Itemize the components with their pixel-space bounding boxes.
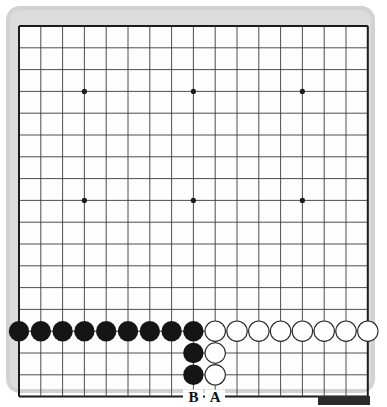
board-grid-and-stones — [0, 0, 387, 407]
black-stone — [183, 321, 203, 341]
black-stone — [52, 321, 72, 341]
star-point — [300, 198, 305, 203]
white-stone — [249, 321, 269, 341]
white-stone — [205, 343, 225, 363]
star-point — [82, 198, 87, 203]
bottom-indicator-tab — [318, 396, 370, 405]
star-point — [191, 198, 196, 203]
black-stone — [31, 321, 51, 341]
white-stone — [292, 321, 312, 341]
point-label-a: A — [205, 389, 225, 404]
go-board-diagram: BA — [0, 0, 387, 407]
black-stone — [9, 321, 29, 341]
white-stone — [314, 321, 334, 341]
black-stone — [96, 321, 116, 341]
black-stone — [140, 321, 160, 341]
star-point — [191, 89, 196, 94]
star-point — [82, 89, 87, 94]
white-stone — [205, 365, 225, 385]
black-stone — [183, 365, 203, 385]
black-stone — [183, 343, 203, 363]
white-stone — [336, 321, 356, 341]
white-stone — [270, 321, 290, 341]
black-stone — [161, 321, 181, 341]
white-stone — [227, 321, 247, 341]
white-stone — [358, 321, 378, 341]
star-point — [300, 89, 305, 94]
black-stone — [74, 321, 94, 341]
point-label-b: B — [183, 389, 203, 404]
black-stone — [118, 321, 138, 341]
white-stone — [205, 321, 225, 341]
